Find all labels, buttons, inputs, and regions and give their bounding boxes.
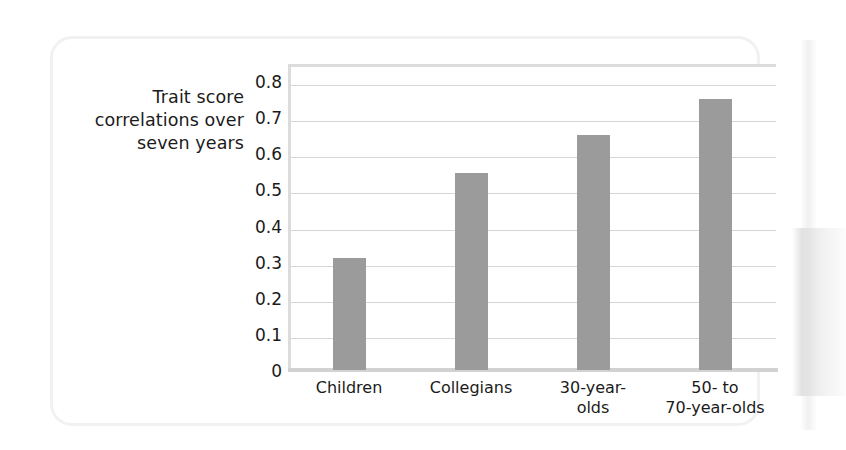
x-axis-tick-label-line: 30-year- xyxy=(532,378,654,398)
x-axis-tick-label-line: Children xyxy=(288,378,410,398)
y-axis-tick-label: 0.3 xyxy=(236,253,282,273)
x-axis-tick-labels: ChildrenCollegians30-year-olds50- to70-y… xyxy=(288,378,778,438)
bar xyxy=(699,99,732,370)
y-axis-tick-label: 0.5 xyxy=(236,180,282,200)
y-axis-tick-label: 0.4 xyxy=(236,217,282,237)
y-axis-tick-label: 0.1 xyxy=(236,325,282,345)
y-axis-title-line-1: Trait score xyxy=(153,87,244,107)
x-axis-tick-label-line: 70-year-olds xyxy=(654,398,776,418)
y-axis-tick-label: 0.7 xyxy=(236,108,282,128)
bar-series xyxy=(288,64,776,370)
x-axis-tick-label: 50- to70-year-olds xyxy=(654,378,776,418)
y-axis-title: Trait score correlations over seven year… xyxy=(86,86,244,155)
y-axis-tick-label: 0.8 xyxy=(236,72,282,92)
x-axis-tick-label: 30-year-olds xyxy=(532,378,654,418)
y-axis-tick-labels: 00.10.20.30.40.50.60.70.8 xyxy=(232,64,282,371)
x-axis-tick-label: Children xyxy=(288,378,410,398)
x-axis-tick-label: Collegians xyxy=(410,378,532,398)
y-axis-tick-label: 0 xyxy=(236,361,282,381)
y-axis-tick-label: 0.6 xyxy=(236,144,282,164)
bar-chart: Trait score correlations over seven year… xyxy=(0,0,846,450)
bar xyxy=(455,173,488,370)
x-axis-tick-label-line: Collegians xyxy=(410,378,532,398)
bar xyxy=(333,258,366,370)
y-axis-tick-label: 0.2 xyxy=(236,289,282,309)
y-axis-title-line-2: correlations over xyxy=(95,110,244,130)
bar xyxy=(577,135,610,370)
y-axis-title-line-3: seven years xyxy=(137,133,244,153)
x-axis-tick-label-line: 50- to xyxy=(654,378,776,398)
x-axis-tick-label-line: olds xyxy=(532,398,654,418)
